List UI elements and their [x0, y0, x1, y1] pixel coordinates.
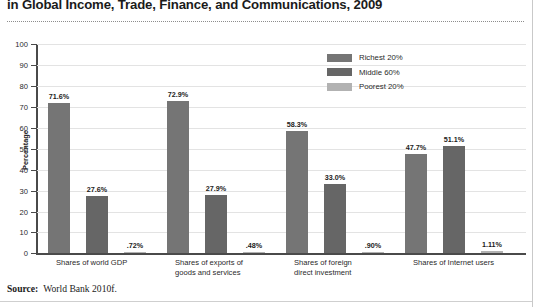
legend-swatch: [327, 83, 352, 91]
y-axis-tick: [31, 107, 36, 108]
y-axis-tick: [31, 170, 36, 171]
bar-rect: [405, 154, 427, 254]
gridline: [37, 128, 526, 129]
y-axis-tick: [31, 65, 36, 66]
legend-label: Middle 60%: [359, 68, 400, 77]
gridline: [37, 65, 526, 66]
bar-rect: [124, 252, 146, 254]
bar[interactable]: 27.6%: [86, 196, 108, 254]
bar-rect: [443, 146, 465, 253]
bar[interactable]: 71.6%: [48, 103, 70, 253]
y-axis-tick: [31, 253, 36, 254]
gridline: [37, 86, 526, 87]
gridline: [37, 107, 526, 108]
title-divider: [7, 21, 524, 23]
legend-label: Richest 20%: [359, 53, 403, 62]
bar-value-label: 33.0%: [325, 173, 345, 182]
legend-item[interactable]: Richest 20%: [327, 51, 404, 64]
x-axis-category-label: Shares of foreign direct investment: [294, 258, 352, 277]
source-text: World Bank 2010f.: [43, 283, 117, 294]
legend-swatch: [327, 68, 352, 76]
gridline: [37, 44, 526, 45]
x-axis-category-label: Shares of exports of goods and services: [175, 258, 243, 277]
x-axis-category-label: Shares of world GDP: [56, 258, 127, 268]
y-axis-tick: [31, 191, 36, 192]
y-axis-label: 70: [20, 102, 28, 111]
bar[interactable]: 1.11%: [481, 251, 503, 253]
bar-value-label: 58.3%: [287, 120, 307, 129]
bar[interactable]: .48%: [243, 252, 265, 253]
bar-value-label: 27.6%: [87, 185, 107, 194]
bottom-divider: [0, 301, 532, 302]
source-note: Source:World Bank 2010f.: [7, 283, 117, 294]
chart-legend: Richest 20%Middle 60%Poorest 20%: [327, 51, 404, 95]
bar[interactable]: 47.7%: [405, 154, 427, 254]
plot-area: Percentage 0102030405060708090100 71.6%2…: [36, 44, 526, 255]
y-axis-tick: [31, 149, 36, 150]
y-axis-label: 80: [20, 81, 28, 90]
bar-value-label: 51.1%: [444, 135, 464, 144]
bar-rect: [86, 196, 108, 254]
y-axis-tick: [31, 232, 36, 233]
bar[interactable]: .90%: [362, 252, 384, 254]
legend-swatch: [327, 54, 352, 62]
bar-rect: [167, 101, 189, 254]
y-axis-tick: [31, 128, 36, 129]
bar-value-label: 72.9%: [168, 90, 188, 99]
bar[interactable]: 33.0%: [324, 184, 346, 253]
y-axis-label: 60: [20, 123, 28, 132]
bar-rect: [48, 103, 70, 253]
bar-value-label: .90%: [365, 241, 381, 250]
y-axis-label: 100: [15, 40, 28, 49]
bar-value-label: .72%: [127, 241, 143, 250]
y-axis-label: 40: [20, 165, 28, 174]
y-axis-label: 90: [20, 60, 28, 69]
bar-value-label: 71.6%: [49, 92, 69, 101]
bar[interactable]: .72%: [124, 252, 146, 254]
y-axis-tick: [31, 44, 36, 45]
bar-rect: [324, 184, 346, 253]
y-axis-tick: [31, 212, 36, 213]
legend-item[interactable]: Poorest 20%: [327, 80, 404, 93]
bar-rect: [481, 251, 503, 253]
bar[interactable]: 27.9%: [205, 195, 227, 253]
y-axis-label: 30: [20, 186, 28, 195]
source-label: Source:: [7, 283, 38, 294]
bar-rect: [205, 195, 227, 253]
y-axis-label: 10: [20, 228, 28, 237]
bar-rect: [286, 131, 308, 253]
x-axis-category-label: Shares of Internet users: [413, 258, 494, 268]
y-axis-tick: [31, 86, 36, 87]
legend-item[interactable]: Middle 60%: [327, 66, 404, 79]
bar[interactable]: 51.1%: [443, 146, 465, 253]
bar-value-label: .48%: [246, 241, 262, 250]
y-axis-label: 20: [20, 207, 28, 216]
bar-value-label: 1.11%: [482, 240, 502, 249]
bar[interactable]: 58.3%: [286, 131, 308, 253]
figure-container: in Global Income, Trade, Finance, and Co…: [0, 0, 533, 307]
bar-value-label: 47.7%: [406, 143, 426, 152]
bar[interactable]: 72.9%: [167, 101, 189, 254]
y-axis-label: 50: [20, 144, 28, 153]
bar-rect: [243, 252, 265, 253]
y-axis-label: 0: [24, 249, 28, 258]
bar-rect: [362, 252, 384, 254]
bar-value-label: 27.9%: [206, 184, 226, 193]
figure-title: in Global Income, Trade, Finance, and Co…: [7, 0, 382, 12]
legend-label: Poorest 20%: [359, 82, 404, 91]
x-axis-line: [36, 253, 526, 255]
